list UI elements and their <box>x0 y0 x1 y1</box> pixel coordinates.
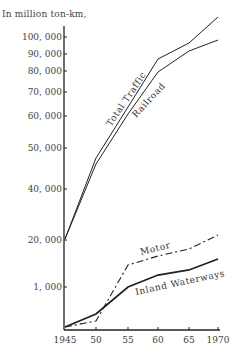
line-chart: 100, 00090, 00080, 00070, 00060, 00050, … <box>0 0 242 353</box>
total-traffic-line <box>65 17 218 239</box>
y-tick-label: 80, 000 <box>28 66 63 76</box>
railroad-line <box>65 40 218 239</box>
x-tick-label: 1945 <box>54 335 77 345</box>
x-tick-label: 1970 <box>207 335 230 345</box>
y-tick-label: 1, 000 <box>33 282 62 292</box>
y-tick-label: 90, 000 <box>28 49 63 59</box>
x-tick-label: 55 <box>122 335 134 345</box>
y-tick-label: 50, 000 <box>28 143 63 153</box>
y-tick-label: 40, 000 <box>28 184 63 194</box>
x-tick-label: 60 <box>152 335 164 345</box>
x-tick-label: 65 <box>183 335 195 345</box>
y-tick-label: 20, 000 <box>28 235 63 245</box>
y-tick-label: 100, 000 <box>22 32 62 42</box>
y-tick-label: 60, 000 <box>28 111 63 121</box>
x-tick-label: 50 <box>90 335 102 345</box>
y-axis-ticks: 100, 00090, 00080, 00070, 00060, 00050, … <box>22 32 67 292</box>
y-tick-label: 70, 000 <box>28 87 63 97</box>
inland-waterways-label: Inland Waterways <box>134 268 226 297</box>
